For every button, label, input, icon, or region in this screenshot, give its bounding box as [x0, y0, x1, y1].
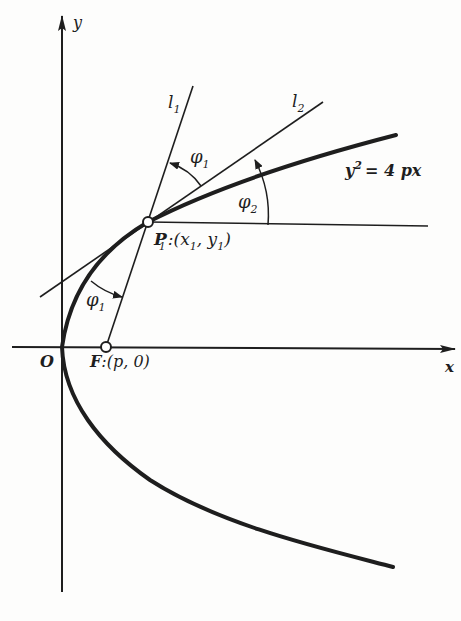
parabola-diagram: y x O l1 l2 φ1 φ2 φ1 y2= 4 px P1:(x1, y1… — [0, 0, 461, 621]
x-axis-label: x — [444, 358, 455, 376]
point-p1-label: P1:(x1, y1) — [153, 229, 231, 253]
angle-phi1-top-label: φ1 — [190, 146, 210, 171]
horizontal-line-through-p1 — [148, 222, 428, 226]
line-l2-tangent — [40, 102, 323, 297]
focus-point — [101, 342, 111, 352]
focus-label: F:(p, 0) — [89, 352, 150, 371]
angle-phi1-left-label: φ1 — [86, 289, 106, 314]
line-l2-label: l2 — [292, 91, 304, 115]
point-p1 — [143, 217, 153, 227]
x-axis — [12, 347, 455, 349]
parabola-curve — [62, 135, 396, 567]
y-axis-label: y — [72, 13, 83, 32]
angle-phi2-label: φ2 — [238, 191, 258, 216]
origin-label: O — [40, 352, 54, 371]
equation-label: y2= 4 px — [344, 159, 422, 180]
line-l1-label: l1 — [168, 92, 180, 116]
